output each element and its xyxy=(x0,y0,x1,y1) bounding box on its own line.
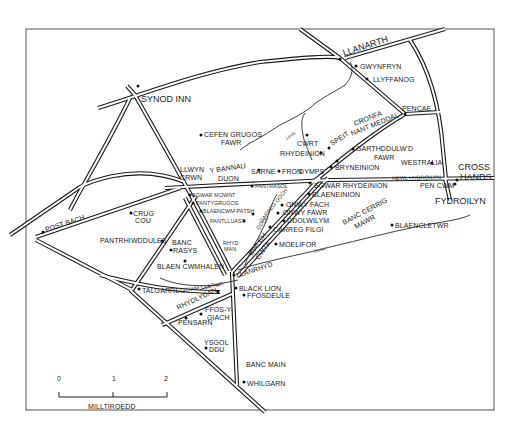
label-moelifor: MOELIFOR xyxy=(279,241,316,248)
label-sarne: SARNE xyxy=(251,168,276,175)
label-banc-rasys-2: RASYS xyxy=(173,247,197,254)
label-dymps: DYMPS xyxy=(299,168,325,175)
label-fydroilyn: FYDROILYN xyxy=(435,196,486,206)
map-canvas: LLANARTH SYNOD INN CROSS HANDS FYDROILYN… xyxy=(0,0,521,435)
label-blaencletwr: BLAENCLETWR xyxy=(395,222,449,229)
scale-tick-0: 0 xyxy=(57,375,61,382)
label-bryneinion: BRYNEINION xyxy=(335,164,379,171)
scale-label: MILLTIROEDD xyxy=(88,403,136,410)
label-rhyd-man-2: MAN xyxy=(224,246,236,252)
label-pensarn: PENSARN xyxy=(178,319,213,326)
label-pencae: PENCAE xyxy=(402,105,432,112)
label-banc-main: BANC MAIN xyxy=(246,361,286,368)
label-llyffanog: LLYFFANOG xyxy=(373,76,415,83)
label-black-lion: BLACK LION xyxy=(239,285,281,292)
label-y-bannau-2: DUON xyxy=(218,175,239,182)
label-llwyn-crwn-2: CRWN xyxy=(180,174,202,181)
label-blaen-cwmhalen: BLAEN CWMHALEN xyxy=(157,263,224,270)
label-garthddulwd-1: GARTHDDULW'D xyxy=(356,145,413,152)
label-cross-hands-2: HANDS xyxy=(460,172,492,182)
label-rhydeinion: RHYDEINION xyxy=(280,150,325,157)
map: LLANARTH SYNOD INN CROSS HANDS FYDROILYN… xyxy=(0,0,521,435)
scale-tick-2: 2 xyxy=(164,375,168,382)
label-garthddulwd-2: FAWR xyxy=(374,154,394,161)
label-pantygrugos: PANTYGRUGOS xyxy=(196,200,239,206)
label-cefen-grugos-1: CEFEN GRUGOS xyxy=(204,131,262,138)
label-pen-cwm: PEN CWM xyxy=(420,182,455,189)
label-ysgol-ddu-2: DDU xyxy=(209,346,224,353)
label-blaeneinion: BLAENEINION xyxy=(312,191,360,198)
label-hewl-hydroilyn: HEWL HYDROILYN xyxy=(392,174,441,181)
label-talgarreg: TALGARREG xyxy=(142,287,186,294)
scale-tick-1: 1 xyxy=(112,375,116,382)
label-cwrt: CWRT xyxy=(297,140,319,147)
label-crug-cou-1: CRUG xyxy=(133,210,154,217)
label-onwy-fawr: ONWY FAWR xyxy=(283,209,327,216)
label-crug-cou-2: COU xyxy=(135,217,151,224)
label-llwyn-crwn-1: LLWYN xyxy=(180,166,204,173)
label-sgwar-mownt: SGWAR MOWNT xyxy=(192,192,236,198)
label-cross-hands-1: CROSS xyxy=(458,162,490,172)
label-pantlluast: PANTLLUAST xyxy=(210,218,246,224)
label-synod-inn: SYNOD INN xyxy=(141,94,191,104)
label-ddolwilym: DDOLWILYM xyxy=(287,217,329,224)
label-ysgol-ddu-1: YSGOL xyxy=(204,339,229,346)
label-fron: FRON xyxy=(282,168,302,175)
label-ffos-y-giach-1: FFOS-Y- xyxy=(205,306,234,313)
label-westralia: WESTRALIA xyxy=(401,159,443,166)
label-blaencwm-patsh: BLAENCWM-PATSH xyxy=(203,208,254,214)
label-gwynfryn: GWYNFRYN xyxy=(360,63,402,70)
label-pantrhiwddules: PANTRHIWDDULES xyxy=(100,237,167,244)
label-carreg-filgi: CARREG FILGI xyxy=(273,226,324,233)
label-onwy-fach: ONWY FACH xyxy=(286,201,329,208)
label-ffosdeule: FFOSDEULE xyxy=(247,292,290,299)
label-whilgarn: WHILGARN xyxy=(247,380,286,387)
label-banc-rasys-1: BANC xyxy=(172,239,192,246)
label-sgwar-rhydeinion: SGWAR RHYDEINION xyxy=(314,182,388,189)
label-cefen-grugos-2: FAWR xyxy=(221,139,241,146)
